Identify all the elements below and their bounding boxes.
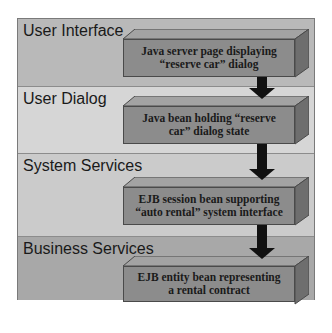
component-face: Java server page displaying“reserve car”… [123, 39, 295, 77]
architecture-frame: User Interface User Dialog System Servic… [17, 18, 315, 300]
arrow-down-icon [257, 225, 267, 259]
arrow-down-icon [257, 144, 267, 180]
layer-label: User Interface [23, 22, 123, 40]
component-text: Java server page displaying“reserve car”… [141, 45, 277, 71]
component-face: Java bean holding “reservecar” dialog st… [123, 106, 295, 144]
component-java-bean: Java bean holding “reservecar” dialog st… [123, 96, 309, 146]
component-text: EJB session bean supporting“auto rental”… [135, 193, 283, 219]
caption-fragment [0, 310, 332, 333]
component-entity-bean: EJB entity bean representinga rental con… [123, 256, 309, 306]
component-face: EJB session bean supporting“auto rental”… [123, 187, 295, 225]
layer-label: System Services [23, 157, 142, 175]
component-jsp: Java server page displaying“reserve car”… [123, 29, 309, 79]
component-text: Java bean holding “reservecar” dialog st… [142, 112, 276, 138]
component-session-bean: EJB session bean supporting“auto rental”… [123, 177, 309, 227]
arrow-down-icon [257, 77, 267, 99]
component-face: EJB entity bean representinga rental con… [123, 266, 295, 302]
layer-label: User Dialog [23, 90, 107, 108]
component-text: EJB entity bean representinga rental con… [137, 271, 280, 297]
